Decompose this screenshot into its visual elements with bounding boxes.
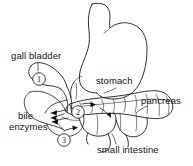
marker-1: 1: [33, 73, 46, 86]
marker-2: 2: [72, 106, 85, 119]
marker-3-arrow: [64, 125, 78, 131]
leader-small-intestine: [112, 134, 116, 144]
marker-1-label: 1: [37, 75, 41, 84]
label-gall-bladder: gall bladder: [11, 50, 61, 61]
label-pancreas: pancreas: [141, 95, 181, 106]
label-small-intestine: small intestine: [97, 144, 159, 155]
label-enzymes: enzymes: [9, 121, 48, 132]
leader-pancreas: [136, 106, 147, 113]
marker-3-label: 3: [62, 136, 66, 145]
digestive-system-diagram: 1 2 3 gall bladder stomach pancreas bile…: [0, 0, 193, 166]
leader-stomach: [104, 88, 116, 93]
marker-2-label: 2: [76, 108, 80, 117]
label-bile: bile: [18, 110, 33, 121]
marker-3: 3: [58, 134, 71, 147]
label-stomach: stomach: [96, 75, 133, 86]
